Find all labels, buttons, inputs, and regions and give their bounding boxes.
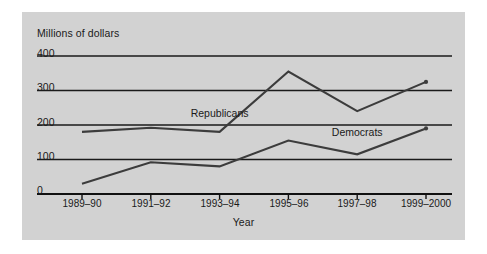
x-tick-label-0: 1989–90 bbox=[63, 198, 102, 209]
gridlines-group bbox=[37, 56, 452, 194]
x-tick-label-3: 1995–96 bbox=[270, 198, 309, 209]
x-tick-label-2: 1993–94 bbox=[201, 198, 240, 209]
y-tick-label-300: 300 bbox=[37, 81, 55, 93]
y-tick-label-400: 400 bbox=[37, 47, 55, 59]
x-tick-label-1: 1991–92 bbox=[132, 198, 171, 209]
series-label-democrats: Democrats bbox=[332, 126, 383, 138]
series-line-republicans bbox=[82, 72, 426, 132]
x-tick-label-5: 1999–2000 bbox=[401, 198, 451, 209]
y-tick-label-0: 0 bbox=[37, 184, 43, 196]
y-tick-label-200: 200 bbox=[37, 116, 55, 128]
series-label-republicans: Republicans bbox=[191, 107, 249, 119]
chart-figure: Millions of dollars Year 400 300 200 100… bbox=[0, 0, 487, 254]
series-endpoint-democrats bbox=[424, 126, 428, 130]
x-tick-label-4: 1997–98 bbox=[338, 198, 377, 209]
y-tick-label-100: 100 bbox=[37, 150, 55, 162]
series-endpoint-republicans bbox=[424, 80, 428, 84]
x-axis-title: Year bbox=[0, 216, 487, 228]
y-axis-title: Millions of dollars bbox=[37, 27, 119, 39]
